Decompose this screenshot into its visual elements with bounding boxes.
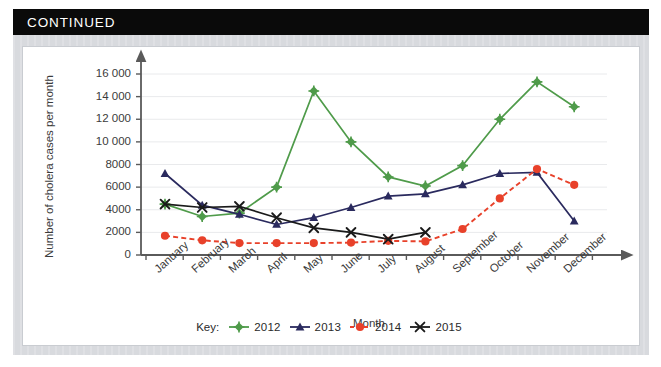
data-point [533,165,541,173]
legend-label-2015: 2015 [435,321,461,333]
data-point [310,239,318,247]
continued-banner: CONTINUED [13,9,649,35]
y-axis-tick-label: 0 [59,249,131,261]
data-point [496,194,504,202]
data-point [273,239,281,247]
y-axis-tick-label: 14 000 [59,91,131,103]
y-axis-tick-label: 2000 [59,226,131,238]
data-point [234,322,245,333]
y-axis-tick-label: 12 000 [59,113,131,125]
chart-legend: Key:2012201320142015 [23,321,639,333]
legend-swatch-cross-icon [409,321,431,333]
legend-item-2012[interactable]: 2012 [228,321,280,333]
legend-key-label: Key: [196,321,219,333]
legend-label-2014: 2014 [375,321,401,333]
data-point [421,237,429,245]
data-point [161,169,170,177]
y-axis-tick-label: 10 000 [59,136,131,148]
data-point [235,239,243,247]
y-axis-tick-label: 6000 [59,181,131,193]
data-point [347,238,355,246]
series-line-2013 [165,172,574,224]
page-margin-right [649,0,661,367]
y-axis-title: Number of cholera cases per month [43,75,55,258]
page-root: CONTINUED 0200040006000800010 00012 0001… [0,0,661,367]
data-point [569,101,580,112]
data-point [197,211,208,222]
legend-swatch-circle-icon [349,321,371,333]
legend-item-2013[interactable]: 2013 [289,321,341,333]
chart-plot-area: 0200040006000800010 00012 00014 00016 00… [23,47,641,347]
y-axis-tick-label: 16 000 [59,68,131,80]
legend-swatch-diamond-icon [228,321,250,333]
legend-item-2015[interactable]: 2015 [409,321,461,333]
y-axis-tick-label: 8000 [59,159,131,171]
chart-card: 0200040006000800010 00012 00014 00016 00… [22,46,640,346]
legend-label-2013: 2013 [315,321,341,333]
data-point [161,232,169,240]
data-point [356,323,364,331]
legend-item-2014[interactable]: 2014 [349,321,401,333]
y-axis-tick-label: 4000 [59,204,131,216]
data-point [459,225,467,233]
legend-label-2012: 2012 [254,321,280,333]
data-point [570,181,578,189]
page-margin-left [0,0,13,367]
data-point [198,236,206,244]
legend-swatch-triangle-icon [289,321,311,333]
continued-banner-label: CONTINUED [13,15,115,30]
series-line-2012 [165,82,574,217]
data-point [271,182,282,193]
